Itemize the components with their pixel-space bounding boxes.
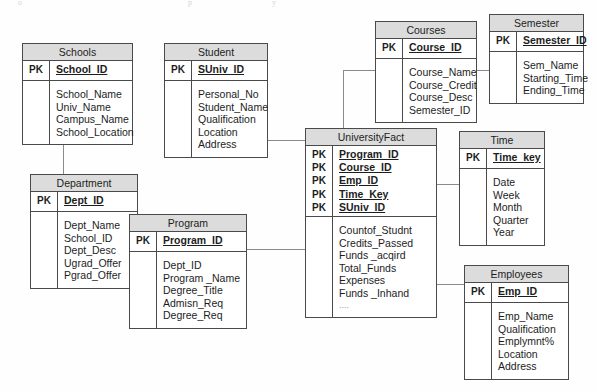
pk-label: PK (306, 201, 332, 214)
attr-list-courses: Course_Name Course_Credit Course_Desc Se… (403, 59, 477, 122)
attr-item: Univ_Name (56, 101, 134, 114)
attr-item: Personal_No (198, 88, 268, 101)
attr-item: Course_Name (409, 66, 477, 79)
entity-title-courses: Courses (376, 22, 476, 39)
attr-item: Student_Name (198, 101, 268, 114)
attr-item: Total_Funds (339, 262, 436, 275)
attr-item: Course_Credit (409, 79, 477, 92)
pk-names-semester: Semester_ID (517, 32, 587, 51)
attr-item: Campus_Name (56, 113, 134, 126)
attrs-courses: Course_Name Course_Credit Course_Desc Se… (376, 59, 476, 122)
entity-title-employees: Employees (465, 266, 568, 283)
pk-row-semester: PK Semester_ID (490, 32, 583, 52)
attr-item: Expenses (339, 274, 436, 287)
pk-label: PK (31, 192, 58, 211)
pk-names-department: Dept_ID (58, 192, 137, 211)
pk-employees-emp-id: Emp_ID (498, 285, 568, 298)
pk-schools-school-id: School_ID (56, 63, 132, 76)
pk-names-employees: Emp_ID (492, 283, 568, 302)
entity-schools[interactable]: Schools PK School_ID School_Name Univ_Na… (22, 43, 133, 145)
scan-speck: y (272, 0, 276, 7)
entity-employees[interactable]: Employees PK Emp_ID Emp_Name Qualificati… (464, 265, 569, 380)
attr-item: Countof_Studnt (339, 224, 436, 237)
connector-universityfact-employees (437, 284, 465, 285)
entity-title-semester: Semester (490, 15, 583, 32)
attrs-universityfact: Countof_Studnt Credits_Passed Funds _acq… (306, 217, 436, 317)
attr-item: Pgrad_Offer (64, 269, 137, 282)
attr-list-department: Dept_Name School_ID Dept_Desc Ugrad_Offe… (58, 212, 137, 288)
connector-universityfact-time (437, 184, 459, 185)
entity-department[interactable]: Department PK Dept_ID Dept_Name School_I… (30, 174, 138, 289)
connector-student-universityfact (268, 140, 305, 141)
attr-item: School_Name (56, 88, 134, 101)
attr-item: Emplymnt% (498, 335, 568, 348)
attr-list-schools: School_Name Univ_Name Campus_Name School… (50, 81, 134, 144)
attr-item: Dept_Desc (64, 244, 137, 257)
entity-title-program: Program (130, 215, 246, 232)
attr-gutter (165, 81, 192, 157)
entity-time[interactable]: Time PK Time_key Date Week Month Quarter… (459, 131, 545, 246)
pk-courses-course-id: Course_ID (409, 41, 476, 54)
attr-item: Emp_Name (498, 310, 568, 323)
pk-semester-semester-id: Semester_ID (523, 34, 587, 47)
entity-title-student: Student (165, 44, 267, 61)
entity-courses[interactable]: Courses PK Course_ID Course_Name Course_… (375, 21, 477, 123)
attrs-time: Date Week Month Quarter Year (460, 169, 544, 245)
pk-label: PK (165, 61, 192, 80)
attr-item: Admisn_Req (163, 297, 246, 310)
entity-title-department: Department (31, 175, 137, 192)
attr-item-ellipsis: .... (339, 300, 436, 311)
pk-label: PK (23, 61, 50, 80)
attr-item: Program _Name (163, 272, 246, 285)
attr-list-employees: Emp_Name Qualification Emplymnt% Locatio… (492, 303, 568, 379)
pk-label: PK (306, 174, 332, 187)
attr-item: Dept_ID (163, 259, 246, 272)
entity-program[interactable]: Program PK Program_ID Dept_ID Program _N… (129, 214, 247, 329)
attr-item: Sem_Name (523, 59, 588, 72)
attr-item: Funds _acqird (339, 249, 436, 262)
attr-item: Week (493, 189, 544, 202)
attr-gutter (490, 52, 517, 103)
attr-item: Ending_Time (523, 84, 588, 97)
entity-student[interactable]: Student PK SUniv_ID Personal_No Student_… (164, 43, 268, 158)
attr-item: Month (493, 201, 544, 214)
attr-gutter (465, 303, 492, 379)
pk-label: PK (130, 232, 157, 251)
attrs-schools: School_Name Univ_Name Campus_Name School… (23, 81, 132, 144)
pk-label: PK (306, 161, 332, 174)
attr-item: Course_Desc (409, 91, 477, 104)
attr-gutter (376, 59, 403, 122)
attr-item: Address (198, 138, 268, 151)
pk-program-program-id: Program_ID (163, 234, 246, 247)
pk-row-schools: PK School_ID (23, 61, 132, 81)
pk-names-schools: School_ID (50, 61, 132, 80)
attr-item: Credits_Passed (339, 237, 436, 250)
entity-title-time: Time (460, 132, 544, 149)
pk-student-suniv-id: SUniv_ID (198, 63, 267, 76)
attr-item: Address (498, 360, 568, 373)
attr-list-semester: Sem_Name Starting_Time Ending_Time (517, 52, 588, 103)
attr-item: Ugrad_Offer (64, 257, 137, 270)
attr-list-universityfact: Countof_Studnt Credits_Passed Funds _acq… (333, 217, 436, 317)
entity-universityfact[interactable]: UniversityFact PK PK PK PK PK Program_ID… (305, 128, 437, 318)
attr-item: Quarter (493, 214, 544, 227)
attr-item: Degree_Req (163, 309, 246, 322)
entity-semester[interactable]: Semester PK Semester_ID Sem_Name Startin… (489, 14, 584, 104)
attr-list-time: Date Week Month Quarter Year (487, 169, 544, 245)
pk-label: PK (376, 39, 403, 58)
pk-row-employees: PK Emp_ID (465, 283, 568, 303)
pk-names-universityfact: Program_ID Course_ID Emp_ID Time_Key SUn… (333, 146, 436, 216)
attr-item: Date (493, 176, 544, 189)
attr-gutter (306, 217, 333, 317)
connector-courses-universityfact-horizontal (343, 70, 376, 71)
attr-item: Semester_ID (409, 104, 477, 117)
pk-row-courses: PK Course_ID (376, 39, 476, 59)
attr-gutter (23, 81, 50, 144)
attr-item: Degree_Title (163, 284, 246, 297)
pk-label: PK (465, 283, 492, 302)
pk-department-dept-id: Dept_ID (64, 194, 137, 207)
attr-item: Qualification (498, 323, 568, 336)
attrs-department: Dept_Name School_ID Dept_Desc Ugrad_Offe… (31, 212, 137, 288)
attrs-student: Personal_No Student_Name Qualification L… (165, 81, 267, 157)
pk-names-student: SUniv_ID (192, 61, 267, 80)
